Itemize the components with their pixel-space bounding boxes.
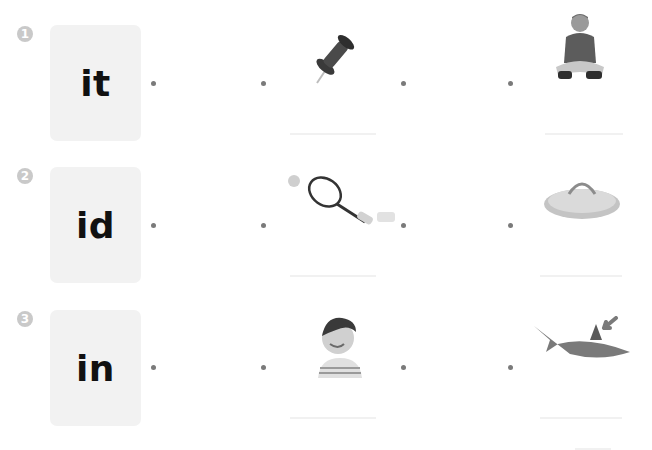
- answer-line: [290, 133, 376, 135]
- number-badge: 2: [17, 168, 33, 184]
- match-dot-picture-left-in[interactable]: [261, 223, 266, 228]
- word-card: in: [50, 310, 141, 426]
- exercise-row-2: 2 id: [0, 167, 652, 309]
- answer-line: [290, 417, 376, 419]
- kid-grinning-icon: [310, 314, 370, 382]
- match-dot-picture-left-out[interactable]: [401, 223, 406, 228]
- number-badge: 3: [17, 311, 33, 327]
- match-dot-picture-left-in[interactable]: [261, 365, 266, 370]
- answer-line: [540, 275, 622, 277]
- word-card: it: [50, 25, 141, 141]
- word-label: id: [76, 205, 115, 246]
- word-label: it: [80, 63, 111, 104]
- number-badge: 1: [17, 26, 33, 42]
- answer-line: [290, 275, 376, 277]
- word-card: id: [50, 167, 141, 283]
- exercise-row-1: 1 it: [0, 25, 652, 167]
- match-dot-picture-left-out[interactable]: [401, 81, 406, 86]
- match-dot-picture-right-in[interactable]: [508, 81, 513, 86]
- match-dot-word[interactable]: [151, 223, 156, 228]
- tennis-racket-icon: [285, 172, 400, 232]
- exercise-row-3: 3 in: [0, 310, 652, 450]
- match-dot-word[interactable]: [151, 365, 156, 370]
- word-label: in: [76, 348, 115, 389]
- match-dot-picture-right-in[interactable]: [508, 223, 513, 228]
- match-dot-word[interactable]: [151, 81, 156, 86]
- push-pin-icon: [305, 27, 365, 87]
- shark-fin-icon: [532, 316, 632, 366]
- boy-sitting-icon: [550, 11, 610, 91]
- match-dot-picture-left-in[interactable]: [261, 81, 266, 86]
- pot-lid-icon: [541, 174, 623, 224]
- match-dot-picture-right-in[interactable]: [508, 365, 513, 370]
- answer-line: [540, 417, 622, 419]
- answer-line: [545, 133, 623, 135]
- match-dot-picture-left-out[interactable]: [401, 365, 406, 370]
